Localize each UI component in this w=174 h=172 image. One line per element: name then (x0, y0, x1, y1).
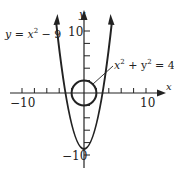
circle-equation-label: x2 + y2 = 4 (114, 58, 174, 72)
parabola-equation-label: y = x2 − 9 (4, 27, 61, 41)
y-tick-label-min: −10 (62, 149, 87, 163)
x-axis-arrow-icon (157, 90, 166, 97)
x-axis-label: x (166, 81, 172, 92)
parabola-right-arrow-icon (108, 14, 115, 25)
graph-canvas: y x 10 −10 −10 10 y = x2 − 9 x2 + y2 = 4 (0, 0, 174, 172)
parabola-left-arrow-icon (54, 14, 61, 25)
y-tick-label-max: 10 (68, 25, 83, 39)
y-axis-label: y (78, 8, 86, 21)
circle-label-leader (93, 66, 113, 84)
x-tick-label-min: −10 (10, 96, 35, 110)
x-tick-label-max: 10 (140, 96, 155, 110)
